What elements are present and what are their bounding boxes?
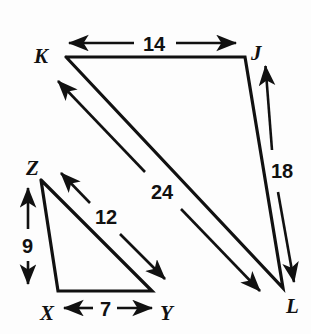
triangle-jkl-outline [66,57,283,288]
dimension-zy-arrow-upleft [61,173,90,203]
measure-label-zx: 9 [22,235,33,257]
vertex-label-z: Z [25,156,39,180]
triangle-xyz [41,180,152,291]
figure-svg: K J L Z X Y 14 18 24 12 9 7 [0,0,311,334]
measure-label-kl: 24 [151,181,174,203]
vertex-label-y: Y [160,301,175,325]
vertex-label-l: L [285,294,299,318]
triangle-xyz-outline [41,180,152,291]
dimension-jl-arrow-up [266,66,273,150]
measure-label-xy: 7 [100,298,111,320]
measure-label-jl: 18 [271,160,293,182]
triangle-jkl [66,57,283,288]
dimension-zy-arrow-downright [120,234,165,279]
measure-label-kj: 14 [143,33,166,55]
geometry-figure: K J L Z X Y 14 18 24 12 9 7 [0,0,311,334]
vertex-label-j: J [250,41,263,65]
vertex-label-x: X [39,301,55,325]
measure-label-zy: 12 [95,206,117,228]
vertex-label-k: K [33,44,50,68]
